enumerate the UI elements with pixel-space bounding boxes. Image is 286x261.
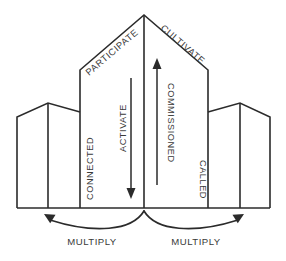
label-cultivate: CULTIVATE [159,22,208,66]
diagram-canvas: PARTICIPATE CULTIVATE ACTIVATE COMMISSIO… [0,0,286,261]
multiply-left-arc [50,211,144,229]
right-building-outline [208,103,270,208]
commissioned-arrow-head [153,58,162,69]
label-participate: PARTICIPATE [83,26,140,77]
diagram-svg: PARTICIPATE CULTIVATE ACTIVATE COMMISSIO… [0,0,286,261]
label-activate: ACTIVATE [118,104,128,152]
label-commissioned: COMMISSIONED [166,83,176,163]
label-called: CALLED [198,160,208,199]
multiply-right-arc [144,211,238,229]
label-connected: CONNECTED [85,137,95,200]
activate-arrow-head [127,188,136,199]
label-multiply-left: MULTIPLY [67,236,117,247]
label-multiply-right: MULTIPLY [171,236,221,247]
